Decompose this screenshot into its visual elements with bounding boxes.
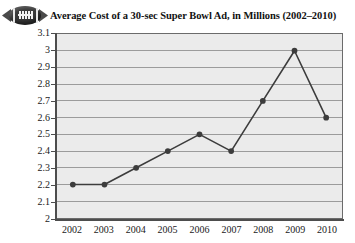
football-stripe-left (13, 8, 15, 23)
y-axis-tick-mark (51, 219, 55, 220)
y-axis-tick-mark (51, 101, 55, 102)
y-axis-tick-label: 2.4 (6, 146, 50, 156)
x-axis-tick-label: 2002 (55, 224, 89, 235)
y-axis-tick-label: 2.8 (6, 79, 50, 89)
football-icon (2, 2, 48, 28)
x-axis-tick-label: 2010 (310, 224, 344, 235)
y-axis-labels: 3.132.92.82.72.62.52.42.32.22.12 (0, 28, 50, 219)
y-axis-tick-label: 2 (6, 214, 50, 224)
x-axis-tick-label: 2003 (87, 224, 121, 235)
y-axis-tick-mark (51, 118, 55, 119)
y-axis-line (55, 33, 57, 220)
chart-container: Average Cost of a 30-sec Super Bowl Ad, … (0, 0, 355, 243)
y-axis-tick-mark (51, 134, 55, 135)
y-axis-tick-label: 3.1 (6, 28, 50, 38)
y-axis-tick-label: 2.6 (6, 113, 50, 123)
plot-wrapper: 3.132.92.82.72.62.52.42.32.22.12 2002200… (0, 28, 355, 243)
x-axis-line (55, 219, 344, 221)
x-axis-tick-label: 2004 (119, 224, 153, 235)
x-axis-tick-label: 2007 (214, 224, 248, 235)
x-axis-tick-label: 2006 (183, 224, 217, 235)
y-axis-tick-label: 2.2 (6, 180, 50, 190)
y-axis-tick-mark (51, 168, 55, 169)
y-axis-tick-mark (51, 151, 55, 152)
x-axis-tick-label: 2005 (151, 224, 185, 235)
football-lace (19, 11, 21, 19)
y-axis-tick-mark (51, 50, 55, 51)
plot-area (56, 33, 343, 219)
y-axis-tick-label: 2.1 (6, 197, 50, 207)
x-axis-tick-label: 2009 (278, 224, 312, 235)
y-axis-tick-label: 2.5 (6, 129, 50, 139)
chart-title: Average Cost of a 30-sec Super Bowl Ad, … (50, 10, 336, 21)
y-axis-tick-mark (51, 67, 55, 68)
y-axis-tick-label: 3 (6, 45, 50, 55)
x-axis-tick-label: 2008 (246, 224, 280, 235)
y-axis-tick-mark (51, 202, 55, 203)
x-axis-labels: 200220032004200520062007200820092010 (56, 224, 343, 240)
y-axis-tick-label: 2.3 (6, 163, 50, 173)
football-lace (22, 11, 24, 19)
y-axis-tick-mark (51, 185, 55, 186)
y-axis-tick-mark (51, 33, 55, 34)
data-series (57, 34, 342, 218)
football-lace (31, 11, 33, 19)
y-axis-tick-mark (51, 84, 55, 85)
football-lace (25, 11, 27, 19)
football-stripe-right (36, 8, 38, 23)
chart-header: Average Cost of a 30-sec Super Bowl Ad, … (0, 0, 355, 30)
y-axis-tick-label: 2.7 (6, 96, 50, 106)
football-lace (28, 11, 30, 19)
y-axis-tick-label: 2.9 (6, 62, 50, 72)
